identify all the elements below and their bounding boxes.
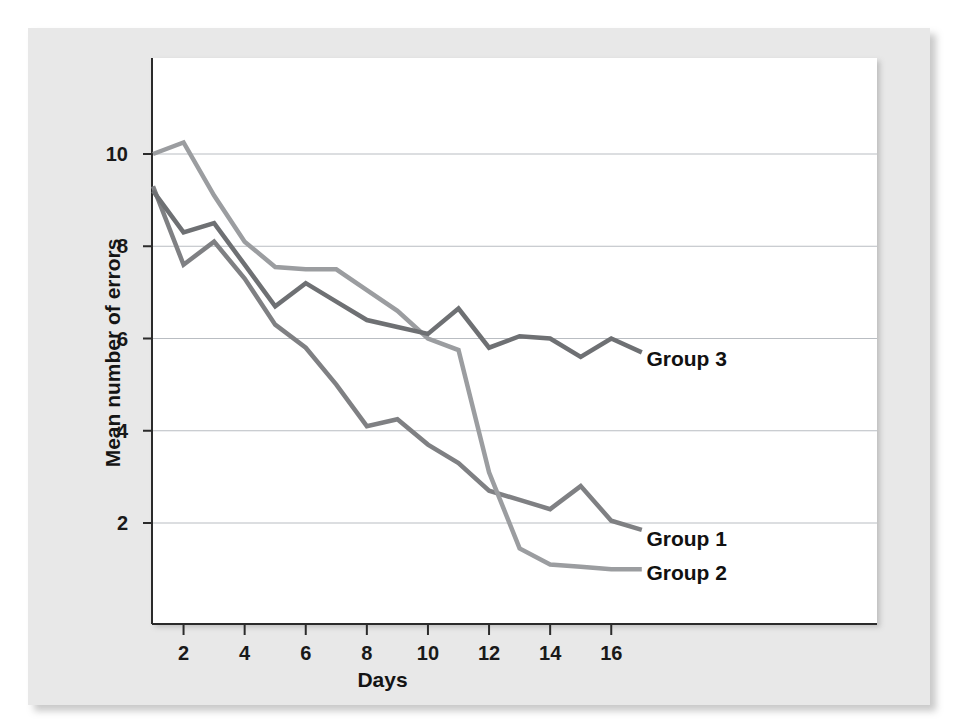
figure-root: 246810246810121416 Group 1Group 2Group 3…: [0, 0, 955, 722]
y-axis-title: Mean number of errors: [101, 188, 125, 518]
x-tick-label: 6: [300, 642, 311, 665]
series-label-group-1: Group 1: [646, 527, 727, 551]
x-tick-label: 4: [239, 642, 250, 665]
x-axis-title: Days: [0, 668, 765, 692]
x-tick-label: 16: [600, 642, 622, 665]
x-tick-label: 10: [417, 642, 439, 665]
x-tick-label: 14: [539, 642, 561, 665]
series-label-group-3: Group 3: [646, 347, 727, 371]
y-tick-label: 10: [78, 143, 128, 166]
x-tick-label: 12: [478, 642, 500, 665]
x-tick-label: 8: [361, 642, 372, 665]
x-tick-label: 2: [178, 642, 189, 665]
series-label-group-2: Group 2: [646, 561, 727, 585]
plot-area: [152, 58, 877, 624]
